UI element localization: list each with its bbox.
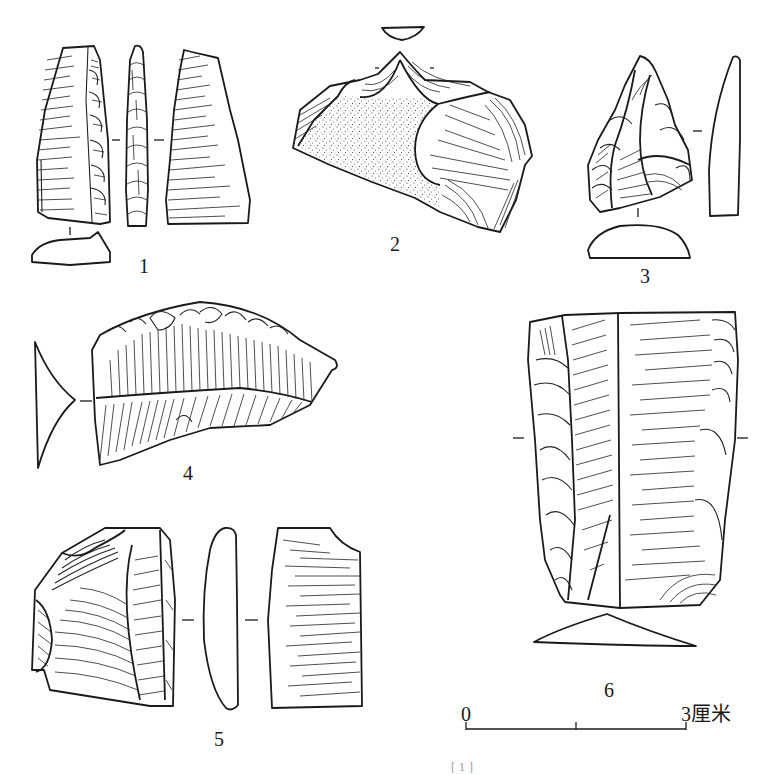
artifact-2 bbox=[293, 27, 532, 232]
footnote-reference: [1] bbox=[451, 760, 477, 775]
artifact-4-label: 4 bbox=[183, 463, 193, 483]
artifact-6-dorsal-view bbox=[528, 312, 738, 608]
artifact-3-lateral-profile bbox=[709, 56, 740, 216]
scale-bar-start-label: 0 bbox=[461, 704, 471, 724]
artifact-6 bbox=[513, 312, 748, 646]
artifact-3 bbox=[588, 56, 740, 258]
artifact-3-cross-section bbox=[588, 225, 690, 258]
artifact-5-lateral-profile bbox=[204, 528, 238, 710]
artifact-4 bbox=[35, 302, 337, 468]
artifact-1 bbox=[32, 46, 250, 265]
artifact-6-cross-section bbox=[534, 614, 696, 646]
artifact-4-cross-section bbox=[35, 342, 75, 468]
artifact-5-label: 5 bbox=[214, 729, 224, 749]
artifact-3-label: 3 bbox=[640, 266, 650, 286]
artifact-6-label: 6 bbox=[604, 680, 614, 700]
artifact-2-cross-section bbox=[382, 27, 424, 40]
artifact-5-ventral-view bbox=[268, 528, 362, 708]
artifact-5 bbox=[32, 528, 362, 710]
scale-bar bbox=[466, 722, 686, 730]
artifact-1-label: 1 bbox=[139, 256, 149, 276]
artifact-1-cross-section bbox=[32, 232, 110, 265]
scale-bar-end-label: 3厘米 bbox=[681, 704, 731, 724]
artifact-2-label: 2 bbox=[390, 234, 400, 254]
artifact-4-dorsal-view bbox=[92, 302, 337, 465]
artifact-1-dorsal-view bbox=[37, 46, 110, 224]
